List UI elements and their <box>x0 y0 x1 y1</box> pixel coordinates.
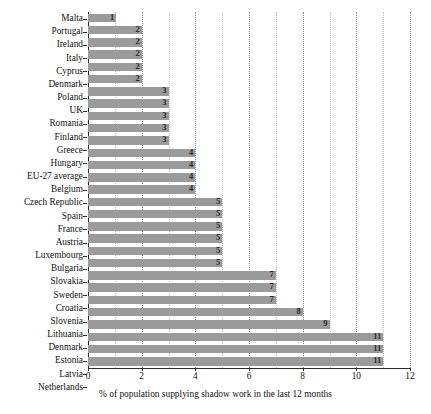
category-label: Bulgaria <box>0 262 83 275</box>
category-label: UK <box>0 104 83 117</box>
category-label-text: Hungary <box>50 158 83 168</box>
bar <box>88 63 142 71</box>
category-tick-mark <box>83 190 87 191</box>
bar-value-label: 8 <box>296 305 302 317</box>
bar-row: 4 <box>88 171 410 183</box>
bar <box>88 112 169 120</box>
bar <box>88 26 142 34</box>
category-label-text: Poland <box>57 92 83 102</box>
bar-row: 2 <box>88 73 410 85</box>
bar-value-label: 2 <box>135 23 141 35</box>
bar <box>88 124 169 132</box>
category-label: Spain <box>0 210 83 223</box>
bar <box>88 185 195 193</box>
category-tick-mark <box>83 32 87 33</box>
category-label: Latvia <box>0 368 83 381</box>
category-label: Austria <box>0 236 83 249</box>
bar-row: 5 <box>88 208 410 220</box>
gridline-12 <box>410 12 411 368</box>
category-tick-mark <box>83 84 87 85</box>
category-tick-mark <box>83 361 87 362</box>
category-label: Malta <box>0 12 83 25</box>
bar-row: 5 <box>88 233 410 245</box>
bar-value-label: 2 <box>135 60 141 72</box>
bar <box>88 259 222 267</box>
bar-value-label: 1 <box>110 11 116 23</box>
bar-value-label: 5 <box>216 207 222 219</box>
category-tick-mark <box>83 98 87 99</box>
bar-row: 7 <box>88 282 410 294</box>
bar-value-label: 2 <box>135 35 141 47</box>
category-label: Belgium <box>0 183 83 196</box>
category-tick-mark <box>83 256 87 257</box>
bar-row: 4 <box>88 159 410 171</box>
category-label: Ireland <box>0 38 83 51</box>
bar-value-label: 5 <box>216 256 222 268</box>
category-axis-labels: MaltaPortugalIrelandItalyCyprusDenmarkPo… <box>0 12 83 368</box>
category-label: Denmark <box>0 341 83 354</box>
bar-value-label: 11 <box>373 342 383 354</box>
category-tick-mark <box>83 348 87 349</box>
bar-value-label: 5 <box>216 231 222 243</box>
category-label: Italy <box>0 52 83 65</box>
category-label-text: Portugal <box>51 26 83 36</box>
bar-row: 3 <box>88 135 410 147</box>
bar-value-label: 3 <box>162 84 168 96</box>
bar-value-label: 4 <box>189 170 195 182</box>
category-label-text: Cyprus <box>56 66 83 76</box>
category-label-text: Luxembourg <box>35 250 83 260</box>
category-label-text: UK <box>70 105 83 115</box>
bar-row: 3 <box>88 122 410 134</box>
bar-value-label: 9 <box>323 317 329 329</box>
bar <box>88 210 222 218</box>
category-label-text: France <box>58 224 83 234</box>
category-label-text: Ireland <box>57 39 83 49</box>
category-tick-mark <box>83 269 87 270</box>
bar-row: 5 <box>88 196 410 208</box>
bar-value-label: 5 <box>216 195 222 207</box>
category-tick-mark <box>83 282 87 283</box>
bar-value-label: 4 <box>189 158 195 170</box>
bar <box>88 161 195 169</box>
category-label-text: Slovakia <box>50 276 83 286</box>
category-label: Hungary <box>0 157 83 170</box>
category-tick-mark <box>83 19 87 20</box>
bar <box>88 136 169 144</box>
category-label-text: Romania <box>49 118 83 128</box>
category-label: EU-27 average <box>0 170 83 183</box>
category-tick-mark <box>83 177 87 178</box>
bar <box>88 99 169 107</box>
category-label: France <box>0 223 83 236</box>
bar <box>88 222 222 230</box>
category-tick-mark <box>83 295 87 296</box>
category-label-text: EU-27 average <box>27 171 83 181</box>
bar-value-label: 4 <box>189 146 195 158</box>
bar <box>88 296 276 304</box>
bar-value-label: 5 <box>216 244 222 256</box>
category-label-text: Belgium <box>51 184 83 194</box>
bar-row: 7 <box>88 270 410 282</box>
category-label: Denmark <box>0 78 83 91</box>
category-tick-mark <box>83 150 87 151</box>
bar-value-label: 3 <box>162 121 168 133</box>
plot-area: 12222233333444455555577789111111 <box>88 12 410 368</box>
bar <box>88 357 383 365</box>
bar-value-label: 7 <box>270 268 276 280</box>
bar-row: 9 <box>88 319 410 331</box>
bar-value-label: 2 <box>135 47 141 59</box>
category-label: Slovenia <box>0 315 83 328</box>
category-label-text: Malta <box>61 13 83 23</box>
x-tick-label-4: 4 <box>193 371 198 381</box>
bar-row: 4 <box>88 147 410 159</box>
bar <box>88 283 276 291</box>
category-label: Poland <box>0 91 83 104</box>
category-label: Cyprus <box>0 65 83 78</box>
bar-row: 3 <box>88 86 410 98</box>
category-label: Czech Republic <box>0 196 83 209</box>
bar-row: 11 <box>88 331 410 343</box>
bar <box>88 345 383 353</box>
bar <box>88 320 330 328</box>
category-label-text: Spain <box>62 211 83 221</box>
category-tick-mark <box>83 229 87 230</box>
bar-rows: 12222233333444455555577789111111 <box>88 12 410 368</box>
